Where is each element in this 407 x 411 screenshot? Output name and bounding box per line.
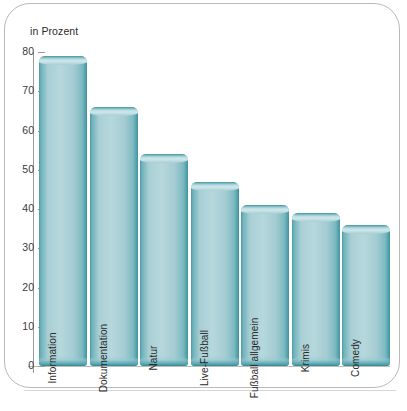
bar-item[interactable]: Fußball allgemein [241, 205, 289, 366]
x-axis-line [28, 366, 390, 367]
bar-rect[interactable] [292, 213, 340, 366]
bar-item[interactable]: Natur [140, 154, 188, 366]
y-axis-tick-mark [38, 366, 45, 367]
y-axis-tick-label: 10 [22, 320, 34, 332]
y-axis-unit-label: in Prozent [30, 25, 78, 37]
y-axis-tick: 0 [0, 366, 45, 367]
bar-item[interactable]: Information [39, 56, 87, 366]
plot-area: in Prozent 01020304050607080 Information… [0, 0, 407, 411]
bar-rect[interactable] [39, 56, 87, 366]
bar-rect[interactable] [191, 182, 239, 366]
y-axis-tick-label: 70 [22, 84, 34, 96]
y-axis-tick-label: 40 [22, 202, 34, 214]
bar-item[interactable]: Krimis [292, 213, 340, 366]
y-axis-tick-label: 60 [22, 124, 34, 136]
bar-rect[interactable] [90, 107, 138, 366]
bar-rect[interactable] [140, 154, 188, 366]
y-axis-tick-label: 80 [22, 45, 34, 57]
chart-figure: in Prozent 01020304050607080 Information… [0, 0, 407, 411]
y-axis-tick: 80 [0, 52, 45, 53]
y-axis-tick-label: 50 [22, 163, 34, 175]
bar-item[interactable]: Live-Fußball [191, 182, 239, 366]
bar-rect[interactable] [342, 225, 390, 366]
y-axis-tick-label: 0 [28, 359, 34, 371]
y-axis-tick-label: 30 [22, 241, 34, 253]
bar-item[interactable]: Dokumentation [90, 107, 138, 366]
bar-rect[interactable] [241, 205, 289, 366]
y-axis-tick-mark [38, 52, 45, 53]
y-axis-tick-label: 20 [22, 281, 34, 293]
bar-item[interactable]: Comedy [342, 225, 390, 366]
